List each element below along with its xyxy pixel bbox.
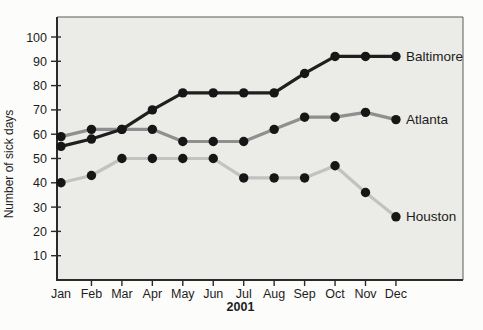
y-tick-label: 10 (33, 249, 47, 263)
x-tick-label: Nov (354, 287, 377, 301)
data-point-baltimore-jun (209, 88, 218, 97)
x-tick-label: Jan (51, 287, 71, 301)
y-tick-label: 80 (33, 79, 47, 93)
data-point-houston-aug (269, 173, 278, 182)
y-tick-label: 20 (33, 225, 47, 239)
data-point-houston-nov (361, 188, 370, 197)
data-point-baltimore-feb (87, 134, 96, 143)
sick-days-line-chart: 102030405060708090100JanFebMarAprMayJunJ… (0, 0, 483, 330)
y-tick-label: 40 (33, 176, 47, 190)
y-axis-title: Number of sick days (2, 110, 16, 219)
data-point-atlanta-oct (330, 112, 339, 121)
data-point-baltimore-may (178, 88, 187, 97)
y-tick-label: 90 (33, 55, 47, 69)
data-point-houston-jan (56, 178, 65, 187)
x-tick-label: Apr (143, 287, 162, 301)
series-label-houston: Houston (406, 209, 456, 224)
data-point-houston-feb (87, 171, 96, 180)
data-point-atlanta-nov (361, 108, 370, 117)
y-tick-label: 30 (33, 201, 47, 215)
data-point-atlanta-apr (148, 125, 157, 134)
x-tick-label: Jul (236, 287, 252, 301)
data-point-houston-sep (300, 173, 309, 182)
data-point-atlanta-jul (239, 137, 248, 146)
x-tick-label: Aug (263, 287, 285, 301)
data-point-houston-apr (148, 154, 157, 163)
y-tick-label: 100 (26, 31, 47, 45)
data-point-houston-dec (391, 212, 400, 221)
x-tick-label: Oct (325, 287, 345, 301)
plot-area (57, 17, 463, 280)
x-tick-label: Jun (203, 287, 223, 301)
data-point-atlanta-mar (117, 125, 126, 134)
data-point-atlanta-dec (391, 115, 400, 124)
data-point-atlanta-aug (269, 125, 278, 134)
x-tick-label: May (171, 287, 195, 301)
data-point-baltimore-aug (269, 88, 278, 97)
data-point-atlanta-sep (300, 112, 309, 121)
data-point-atlanta-may (178, 137, 187, 146)
x-axis-title: 2001 (227, 300, 255, 314)
series-label-baltimore: Baltimore (406, 49, 463, 64)
x-tick-label: Sep (293, 287, 315, 301)
data-point-houston-may (178, 154, 187, 163)
data-point-houston-oct (330, 161, 339, 170)
x-tick-label: Mar (111, 287, 133, 301)
data-point-houston-jun (209, 154, 218, 163)
y-tick-label: 50 (33, 152, 47, 166)
x-tick-label: Dec (385, 287, 407, 301)
data-point-houston-jul (239, 173, 248, 182)
data-point-baltimore-oct (330, 52, 339, 61)
data-point-baltimore-nov (361, 52, 370, 61)
y-tick-label: 70 (33, 103, 47, 117)
series-label-atlanta: Atlanta (406, 112, 449, 127)
data-point-baltimore-sep (300, 69, 309, 78)
data-point-atlanta-feb (87, 125, 96, 134)
data-point-atlanta-jun (209, 137, 218, 146)
data-point-atlanta-jan (56, 132, 65, 141)
chart-figure: 102030405060708090100JanFebMarAprMayJunJ… (0, 0, 483, 330)
data-point-baltimore-jan (56, 142, 65, 151)
y-tick-label: 60 (33, 128, 47, 142)
data-point-houston-mar (117, 154, 126, 163)
data-point-baltimore-apr (148, 105, 157, 114)
x-tick-label: Feb (81, 287, 103, 301)
data-point-baltimore-dec (391, 52, 400, 61)
data-point-baltimore-jul (239, 88, 248, 97)
